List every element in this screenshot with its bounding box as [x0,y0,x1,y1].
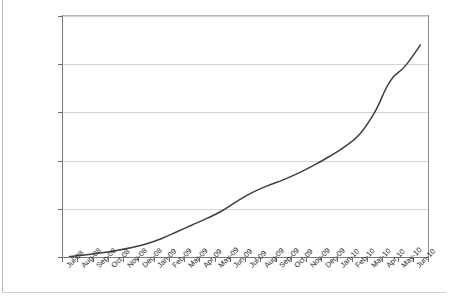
series-plot-area [62,16,428,257]
line-chart: 250000200000150000100000500000 Jul-08Aug… [0,0,449,300]
x-axis-tick [62,258,63,262]
plot-right-border [428,15,429,258]
image-frame-left-edge [2,0,3,292]
image-frame-bottom-edge [2,292,446,293]
cumulative-total-line [70,45,421,257]
